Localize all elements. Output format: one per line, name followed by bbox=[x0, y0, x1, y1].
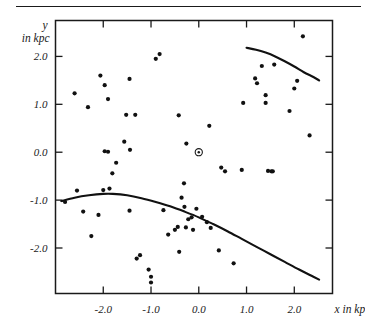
upper-boundary-curve bbox=[247, 48, 320, 81]
data-points bbox=[63, 34, 312, 284]
x-tick-label: 0.0 bbox=[192, 303, 206, 315]
data-point bbox=[133, 113, 137, 117]
data-point bbox=[103, 83, 107, 87]
data-point bbox=[292, 86, 296, 90]
data-point bbox=[207, 124, 211, 128]
plot-frame bbox=[56, 21, 333, 294]
data-point bbox=[264, 93, 268, 97]
data-point bbox=[158, 52, 162, 56]
data-point bbox=[166, 232, 170, 236]
data-point bbox=[184, 141, 188, 145]
data-point bbox=[127, 77, 131, 81]
y-tick-label: 1.0 bbox=[34, 98, 48, 110]
y-tick-label: 2.0 bbox=[34, 50, 48, 62]
data-point bbox=[86, 105, 90, 109]
data-point bbox=[96, 213, 100, 217]
data-point bbox=[149, 280, 153, 284]
y-axis-ticks bbox=[56, 56, 333, 248]
data-point bbox=[272, 62, 276, 66]
x-tick-label: 2.0 bbox=[287, 303, 301, 315]
data-point bbox=[219, 165, 223, 169]
data-point bbox=[264, 101, 268, 105]
x-tick-label: 1.0 bbox=[240, 303, 254, 315]
data-point bbox=[260, 64, 264, 68]
data-point bbox=[194, 207, 198, 211]
data-point bbox=[89, 234, 93, 238]
data-point bbox=[106, 97, 110, 101]
data-point bbox=[232, 261, 236, 265]
data-point bbox=[106, 150, 110, 154]
data-point bbox=[205, 220, 209, 224]
data-point bbox=[63, 200, 67, 204]
sun-symbol-dot bbox=[198, 151, 201, 154]
data-point bbox=[161, 208, 165, 212]
data-point bbox=[217, 248, 221, 252]
x-axis-label: x in kpc bbox=[334, 303, 365, 316]
data-point bbox=[149, 275, 153, 279]
data-point bbox=[190, 215, 194, 219]
data-point bbox=[75, 188, 79, 192]
data-point bbox=[98, 73, 102, 77]
data-point bbox=[255, 81, 259, 85]
data-point bbox=[200, 215, 204, 219]
data-point bbox=[107, 187, 111, 191]
y-tick-label: -1.0 bbox=[30, 194, 48, 206]
data-point bbox=[122, 140, 126, 144]
sun-symbol-marker bbox=[195, 149, 202, 156]
data-point bbox=[177, 250, 181, 254]
data-point bbox=[301, 34, 305, 38]
data-point bbox=[240, 168, 244, 172]
data-point bbox=[179, 196, 183, 200]
data-point bbox=[73, 91, 77, 95]
data-point bbox=[287, 109, 291, 113]
boundary-curves bbox=[61, 48, 319, 280]
data-point bbox=[124, 113, 128, 117]
x-axis-tick-labels: -2.0-1.00.01.02.0 bbox=[95, 303, 302, 315]
data-point bbox=[307, 133, 311, 137]
data-point bbox=[209, 226, 213, 230]
data-point bbox=[176, 225, 180, 229]
data-point bbox=[154, 57, 158, 61]
axes-frame bbox=[56, 21, 333, 294]
figure-container: -2.0-1.00.01.02.0 2.01.00.0-1.0-2.0 x in… bbox=[0, 0, 365, 328]
y-axis-tick-labels: 2.01.00.0-1.0-2.0 bbox=[30, 50, 48, 254]
data-point bbox=[114, 161, 118, 165]
data-point bbox=[253, 76, 257, 80]
data-point bbox=[81, 210, 85, 214]
data-point bbox=[147, 267, 151, 271]
data-point bbox=[110, 171, 114, 175]
data-point bbox=[177, 113, 181, 117]
y-axis-label-line2: in kpc bbox=[22, 32, 50, 45]
y-tick-label: -2.0 bbox=[30, 242, 48, 254]
x-tick-label: -1.0 bbox=[142, 303, 160, 315]
data-point bbox=[295, 79, 299, 83]
scatter-plot: -2.0-1.00.01.02.0 2.01.00.0-1.0-2.0 x in… bbox=[0, 0, 365, 328]
x-tick-label: -2.0 bbox=[95, 303, 113, 315]
data-point bbox=[182, 205, 186, 209]
data-point bbox=[138, 253, 142, 257]
data-point bbox=[128, 148, 132, 152]
y-axis-label-line1: y bbox=[41, 19, 48, 32]
data-point bbox=[101, 188, 105, 192]
data-point bbox=[191, 228, 195, 232]
data-point bbox=[182, 181, 186, 185]
data-point bbox=[271, 169, 275, 173]
data-point bbox=[223, 169, 227, 173]
lower-boundary-curve bbox=[61, 194, 319, 280]
data-point bbox=[241, 101, 245, 105]
data-point bbox=[135, 256, 139, 260]
data-point bbox=[127, 209, 131, 213]
y-tick-label: 0.0 bbox=[34, 146, 48, 158]
data-point bbox=[184, 225, 188, 229]
